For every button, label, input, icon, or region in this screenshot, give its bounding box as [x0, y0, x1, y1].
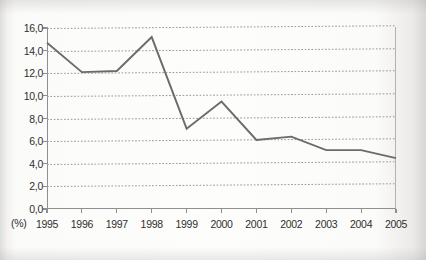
- line-series: [47, 28, 396, 209]
- y-axis-label: 16,0: [24, 23, 43, 34]
- x-axis-tick: [326, 209, 327, 213]
- x-axis-label: 2002: [280, 219, 302, 230]
- x-axis-tick: [186, 209, 187, 213]
- plot-area: [47, 28, 396, 209]
- x-axis-label: 2003: [315, 219, 337, 230]
- x-axis-tick: [395, 209, 396, 213]
- y-axis-label: 4,0: [29, 159, 43, 170]
- x-axis-label: 1995: [36, 219, 58, 230]
- series-polyline: [47, 37, 396, 158]
- y-axis-label: 0,0: [29, 204, 43, 215]
- y-axis-label: 10,0: [24, 91, 43, 102]
- chart-screenshot: 16,014,012,010,08,06,04,02,00,0 19951996…: [0, 0, 426, 260]
- y-axis-label: 8,0: [29, 114, 43, 125]
- x-axis-tick: [221, 209, 222, 213]
- x-axis-label: 2004: [350, 219, 372, 230]
- x-axis-label: 1998: [141, 219, 163, 230]
- x-axis-tick: [116, 209, 117, 213]
- y-axis-unit-label: (%): [11, 218, 26, 229]
- x-axis-tick: [256, 209, 257, 213]
- x-axis-tick: [46, 209, 47, 213]
- y-axis-label: 12,0: [24, 68, 43, 79]
- y-axis-label: 6,0: [29, 136, 43, 147]
- x-axis-tick: [361, 209, 362, 213]
- x-axis-label: 2001: [245, 219, 267, 230]
- x-axis-tick: [291, 209, 292, 213]
- x-axis-label: 1997: [106, 219, 128, 230]
- x-axis-label: 1996: [71, 219, 93, 230]
- x-axis-tick: [81, 209, 82, 213]
- x-axis-label: 2005: [385, 219, 407, 230]
- x-axis-tick: [151, 209, 152, 213]
- y-axis-label: 14,0: [24, 46, 43, 57]
- x-axis-label: 2000: [210, 219, 232, 230]
- x-axis-label: 1999: [176, 219, 198, 230]
- y-axis-label: 2,0: [29, 181, 43, 192]
